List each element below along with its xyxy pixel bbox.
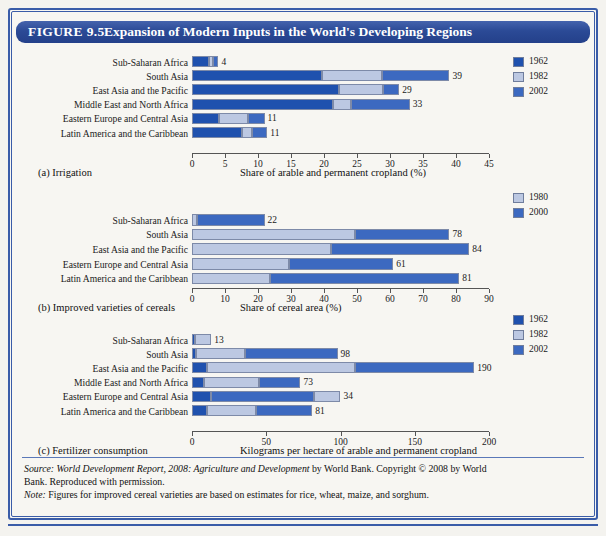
legend-swatch-1982 xyxy=(513,72,524,82)
x-axis-tick xyxy=(324,154,325,158)
bar-segment-1982 xyxy=(314,391,341,402)
source-note: Source: World Development Report, 2008: … xyxy=(24,462,582,501)
bar-value-label: 33 xyxy=(413,99,423,109)
bar-segment-2002 xyxy=(211,391,313,402)
x-axis-line xyxy=(192,153,489,154)
legend-label-2000: 2000 xyxy=(529,207,548,217)
bar-segment-1980 xyxy=(192,273,270,285)
bar-segment-2002 xyxy=(355,362,474,373)
bar-segment-1962 xyxy=(192,70,322,81)
bar-row-middle-east-and-north-africa xyxy=(16,99,590,110)
bar-segment-1962 xyxy=(192,391,211,402)
bar-row-latin-america-and-the-caribbean xyxy=(16,273,590,285)
legend-label-1962: 1962 xyxy=(529,56,548,66)
x-axis-tick xyxy=(357,289,358,293)
bar-segment-1982 xyxy=(207,405,256,416)
chart-panel-fertilizer: 050100150200Sub-Saharan Africa13South As… xyxy=(16,314,590,452)
x-axis-tick-label: 0 xyxy=(190,294,195,304)
figure-header-bar: FIGURE 9.5 Expansion of Modern Inputs in… xyxy=(16,21,590,43)
figure-page: FIGURE 9.5 Expansion of Modern Inputs in… xyxy=(0,0,606,536)
x-axis-tick xyxy=(225,289,226,293)
x-axis-tick-label: 200 xyxy=(482,437,496,447)
legend-label-2002: 2002 xyxy=(529,86,548,96)
x-axis-tick-label: 5 xyxy=(223,159,228,169)
bar-row-east-asia-and-the-pacific xyxy=(16,243,590,255)
legend-label-1982: 1982 xyxy=(529,329,548,339)
panel-caption-a: (a) Irrigation xyxy=(38,167,92,178)
bar-value-label: 13 xyxy=(214,335,224,345)
source-line-2: Bank. Reproduced with permission. xyxy=(24,475,582,488)
x-axis-tick-label: 70 xyxy=(418,294,428,304)
chart-panel-improved-varieties: 0102030405060708090Sub-Saharan Africa22S… xyxy=(16,192,590,314)
figure-bottom-rule xyxy=(8,524,598,526)
bar-segment-1982 xyxy=(333,99,351,110)
x-axis-tick xyxy=(415,432,416,436)
bar-value-label: 78 xyxy=(452,229,462,239)
x-axis-tick-label: 45 xyxy=(484,159,494,169)
source-label: Source: xyxy=(24,463,54,474)
bar-segment-1980 xyxy=(192,258,289,270)
bar-segment-1982 xyxy=(322,70,382,81)
x-axis-line xyxy=(192,288,489,289)
bar-segment-2002 xyxy=(383,84,400,95)
x-axis-tick-label: 80 xyxy=(451,294,461,304)
x-axis-tick xyxy=(489,289,490,293)
x-axis-tick xyxy=(291,154,292,158)
x-axis-title-a: Share of arable and permanent cropland (… xyxy=(240,167,426,178)
bar-segment-2000 xyxy=(289,258,393,270)
x-axis-tick xyxy=(423,154,424,158)
legend-swatch-2002 xyxy=(513,87,524,97)
legend-label-1982: 1982 xyxy=(529,71,548,81)
bar-segment-2000 xyxy=(331,243,470,255)
x-axis-tick xyxy=(456,154,457,158)
x-axis-tick xyxy=(225,154,226,158)
bar-segment-2000 xyxy=(355,229,449,241)
x-axis-tick xyxy=(324,289,325,293)
bar-value-label: 73 xyxy=(303,377,313,387)
bar-segment-2002 xyxy=(248,113,265,124)
bar-row-south-asia xyxy=(16,229,590,241)
bar-segment-2002 xyxy=(213,56,218,67)
x-axis-tick-label: 0 xyxy=(190,437,195,447)
bar-row-east-asia-and-the-pacific xyxy=(16,84,590,95)
bar-segment-1962 xyxy=(192,127,242,138)
bar-value-label: 22 xyxy=(268,215,278,225)
legend-label-1962: 1962 xyxy=(529,314,548,324)
bar-value-label: 29 xyxy=(402,85,412,95)
bar-segment-1962 xyxy=(192,405,207,416)
x-axis-tick xyxy=(357,154,358,158)
x-axis-tick xyxy=(489,154,490,158)
bar-value-label: 98 xyxy=(341,349,351,359)
x-axis-tick xyxy=(266,432,267,436)
bar-segment-1982 xyxy=(195,334,211,345)
bar-value-label: 4 xyxy=(221,57,226,67)
bar-segment-2002 xyxy=(382,70,449,81)
figure-number: FIGURE 9.5 xyxy=(28,24,105,40)
legend-swatch-1962 xyxy=(513,57,524,67)
bar-segment-1982 xyxy=(207,362,356,373)
bar-row-eastern-europe-and-central-asia xyxy=(16,258,590,270)
bar-row-latin-america-and-the-caribbean xyxy=(16,405,590,416)
legend-swatch-1982 xyxy=(513,330,524,340)
legend-label-2002: 2002 xyxy=(529,344,548,354)
chart-panel-irrigation: 051015202530354045Sub-Saharan Africa4Sou… xyxy=(16,52,590,192)
legend-swatch-2000 xyxy=(513,208,524,218)
panel-caption-b: (b) Improved varieties of cereals xyxy=(38,302,175,313)
bar-segment-1962 xyxy=(192,84,339,95)
bar-row-sub-saharan-africa xyxy=(16,56,590,67)
bar-row-eastern-europe-and-central-asia xyxy=(16,391,590,402)
legend-swatch-1962 xyxy=(513,315,524,325)
x-axis-tick xyxy=(258,154,259,158)
x-axis-tick xyxy=(192,154,193,158)
bar-segment-1982 xyxy=(219,113,248,124)
bar-value-label: 39 xyxy=(452,71,462,81)
bar-segment-2002 xyxy=(351,99,410,110)
figure-title: Expansion of Modern Inputs in the World'… xyxy=(104,24,472,40)
bar-row-east-asia-and-the-pacific xyxy=(16,362,590,373)
bar-segment-1982 xyxy=(196,348,245,359)
legend-swatch-2002 xyxy=(513,345,524,355)
x-axis-tick-label: 90 xyxy=(484,294,494,304)
x-axis-tick xyxy=(456,289,457,293)
bar-value-label: 81 xyxy=(315,406,325,416)
x-axis-tick xyxy=(390,154,391,158)
